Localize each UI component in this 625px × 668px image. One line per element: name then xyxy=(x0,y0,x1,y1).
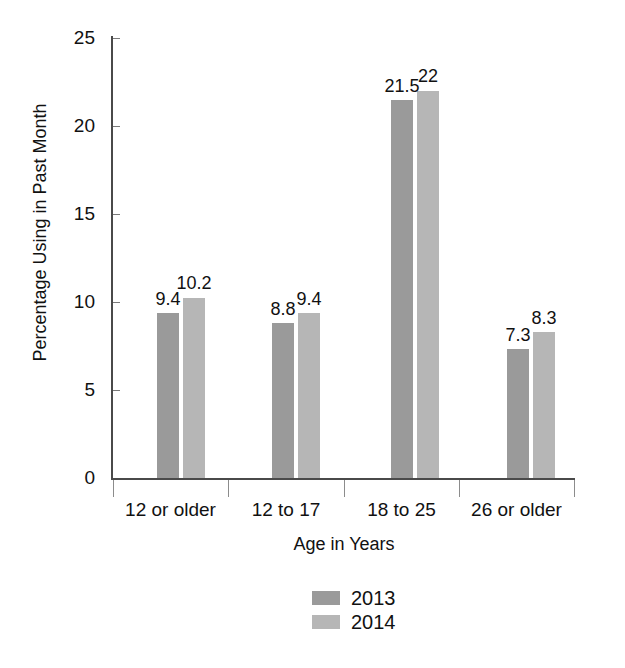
bar-2013-12-to-17 xyxy=(272,323,294,478)
bar-2014-12-to-17 xyxy=(298,313,320,478)
y-axis-title: Percentage Using in Past Month xyxy=(30,23,51,443)
legend-item-2013: 2013 xyxy=(312,588,396,608)
bar-2013-18-to-25 xyxy=(391,100,413,478)
y-tick-label-25: 25 xyxy=(55,28,95,47)
bar-2014-12-or-older xyxy=(183,298,205,478)
category-label-26-or-older: 26 or older xyxy=(459,499,574,521)
legend-swatch-2014-icon xyxy=(312,615,340,629)
category-label-18-to-25: 18 to 25 xyxy=(344,499,459,521)
x-axis-line xyxy=(111,478,575,480)
y-tick-label-10: 10 xyxy=(55,292,95,311)
y-tick-label-5: 5 xyxy=(55,380,95,399)
y-tick-label-15: 15 xyxy=(55,204,95,223)
category-separator-1 xyxy=(228,480,229,497)
y-tick-label-0: 0 xyxy=(55,468,95,487)
legend-label-2014: 2014 xyxy=(351,612,396,632)
category-separator-3 xyxy=(459,480,460,497)
category-label-12-to-17: 12 to 17 xyxy=(228,499,344,521)
category-separator-2 xyxy=(344,480,345,497)
bar-chart-figure: 25 20 15 10 5 0 Percentage Using in Past… xyxy=(0,0,625,668)
bar-2013-26-or-older xyxy=(507,349,529,478)
category-edge-right xyxy=(574,480,575,497)
bar-2013-12-or-older xyxy=(157,313,179,478)
category-edge-left xyxy=(113,480,114,497)
bar-value-7.3: 7.3 xyxy=(496,326,540,344)
bar-2014-26-or-older xyxy=(533,332,555,478)
legend-item-2014: 2014 xyxy=(312,612,396,632)
y-tick-label-20: 20 xyxy=(55,116,95,135)
bar-value-9.4-b: 9.4 xyxy=(288,290,330,308)
bar-value-10.2: 10.2 xyxy=(171,274,217,292)
legend-label-2013: 2013 xyxy=(351,588,396,608)
bar-2014-18-to-25 xyxy=(417,91,439,478)
legend-swatch-2013-icon xyxy=(312,591,340,605)
bar-value-8.3: 8.3 xyxy=(523,309,565,327)
category-label-12-or-older: 12 or older xyxy=(113,499,228,521)
bar-value-22: 22 xyxy=(412,67,444,85)
chart-legend: 2013 2014 xyxy=(312,588,396,636)
x-axis-title: Age in Years xyxy=(113,534,575,555)
plot-area: 9.4 10.2 8.8 9.4 21.5 22 7.3 8.3 xyxy=(113,38,575,478)
